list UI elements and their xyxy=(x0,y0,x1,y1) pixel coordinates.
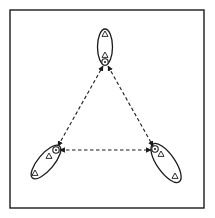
leader-node-center xyxy=(55,149,57,151)
network-diagram xyxy=(0,0,215,218)
leader-node-center xyxy=(154,148,156,150)
leader-node-center xyxy=(104,61,106,63)
